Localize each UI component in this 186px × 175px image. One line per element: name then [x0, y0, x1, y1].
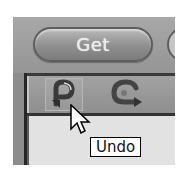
icon-toolbar [27, 76, 175, 113]
tooltip-text: Undo [96, 140, 135, 155]
top-toolbar: Get [13, 17, 175, 73]
partial-toolbar-button[interactable] [167, 27, 175, 62]
left-panel-edge [13, 73, 27, 165]
get-button[interactable]: Get [33, 27, 153, 62]
undo-button[interactable] [45, 78, 83, 111]
app-window-crop: Get [13, 17, 175, 165]
get-button-label: Get [76, 34, 110, 55]
undo-tooltip: Undo [90, 137, 141, 157]
redo-button[interactable] [107, 78, 145, 111]
undo-icon [48, 78, 80, 112]
redo-icon [106, 78, 146, 112]
